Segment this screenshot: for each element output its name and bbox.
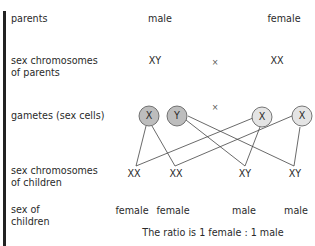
- ratio-statement: The ratio is 1 female : 1 male: [142, 227, 283, 238]
- child-sex-3: male: [232, 205, 256, 217]
- child-chromosomes-2: XX: [169, 168, 182, 180]
- gamete-label-3: X: [259, 111, 266, 123]
- child-chromosomes-1: XX: [127, 168, 140, 180]
- child-sex-4: male: [284, 205, 308, 217]
- gamete-label-4: X: [299, 110, 306, 122]
- gamete-label-1: X: [146, 110, 153, 122]
- gamete-label-2: Y: [174, 110, 180, 122]
- child-sex-1: female: [115, 205, 148, 217]
- child-chromosomes-4: XY: [289, 168, 301, 180]
- child-chromosomes-3: XY: [239, 168, 251, 180]
- child-sex-2: female: [156, 205, 189, 217]
